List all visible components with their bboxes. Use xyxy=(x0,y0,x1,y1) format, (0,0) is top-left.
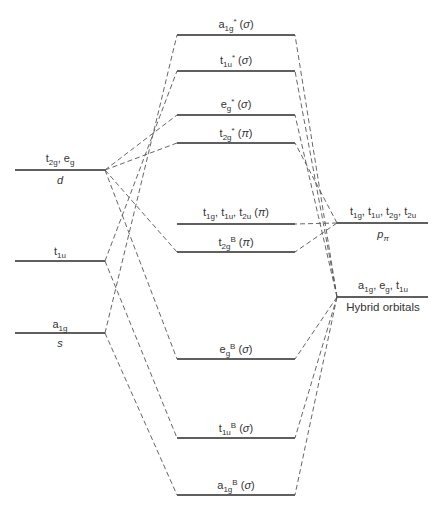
label-s-orbital: s xyxy=(57,337,63,349)
label-t2g-star: t2g* (π) xyxy=(220,125,253,144)
label-s-symmetry: a1g xyxy=(52,318,67,335)
label-t2g-bonding: t2gB (π) xyxy=(218,234,253,253)
label-p-symmetry: t1u xyxy=(54,245,66,262)
label-eg-star: eg* (σ) xyxy=(221,96,252,115)
label-nonbonding-pi: t1g, t1u, t2u (π) xyxy=(203,206,269,223)
label-ppi-orbital: pπ xyxy=(377,228,388,245)
label-d-orbital: d xyxy=(57,174,63,186)
label-ppi-symmetry: t1g, t1u, t2g, t2u xyxy=(350,205,416,222)
label-hybrid-orbitals: Hybrid orbitals xyxy=(346,301,420,313)
label-t1u-bonding: t1uB (σ) xyxy=(219,420,253,439)
label-a1g-bonding: a1gB (σ) xyxy=(217,477,254,496)
label-hybrid-symmetry: a1g, eg, t1u xyxy=(358,279,408,296)
label-d-symmetry: t2g, eg xyxy=(46,152,75,169)
label-t1u-star: t1u* (σ) xyxy=(220,52,252,71)
label-a1g-star: a1g* (σ) xyxy=(218,16,253,35)
label-eg-bonding: egB (σ) xyxy=(220,341,253,360)
